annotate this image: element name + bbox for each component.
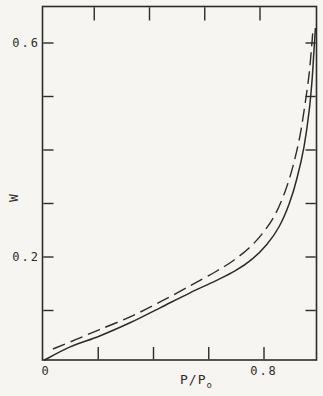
y-tick-label-0-6: 0.6 <box>8 37 40 49</box>
isotherm-plot-canvas <box>0 0 323 396</box>
plot-box <box>43 7 317 361</box>
x-axis-label-subscript: o <box>207 380 212 390</box>
solid-isotherm-curve <box>44 28 315 360</box>
y-tick-label-0-2: 0.2 <box>8 251 40 263</box>
x-tick-label-0: 0 <box>35 365 55 377</box>
x-tick-label-0-8: 0.8 <box>246 365 282 377</box>
y-axis-label: W <box>8 187 20 209</box>
x-axis-label: P/Po <box>164 374 228 391</box>
adsorption-isotherm-figure: 0.6 0.2 0 0.8 W P/Po <box>0 0 323 396</box>
x-axis-label-main: P/P <box>180 372 206 387</box>
dashed-isotherm-curve <box>53 30 313 349</box>
